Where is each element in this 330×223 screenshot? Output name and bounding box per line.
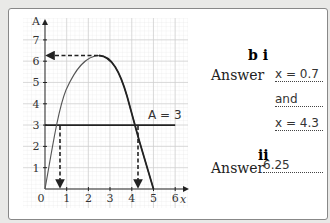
svg-text:0: 0 [38, 192, 45, 205]
svg-text:3: 3 [107, 192, 114, 205]
svg-text:2: 2 [85, 192, 92, 205]
svg-text:x: x [180, 193, 187, 206]
answer-label-1: Answer [211, 67, 264, 83]
answer-b-i-and[interactable]: and [275, 92, 323, 107]
answer-b-ii-value[interactable]: 6.25 [263, 158, 323, 173]
svg-text:1: 1 [63, 192, 70, 205]
answer-b-i-value-1[interactable]: x = 0.7 [275, 67, 323, 82]
svg-text:5: 5 [150, 192, 157, 205]
svg-text:1: 1 [33, 162, 40, 175]
line-label: A = 3 [148, 108, 182, 122]
svg-text:6: 6 [172, 192, 179, 205]
svg-text:6: 6 [33, 55, 40, 68]
svg-text:A: A [31, 15, 41, 28]
svg-text:5: 5 [33, 76, 40, 89]
svg-text:4: 4 [33, 98, 40, 111]
svg-text:4: 4 [128, 192, 135, 205]
svg-text:3: 3 [33, 119, 40, 132]
svg-text:7: 7 [33, 34, 40, 47]
svg-text:2: 2 [33, 140, 40, 153]
answer-label-2: Answer [211, 160, 264, 176]
part-b-i-label: b i [248, 47, 268, 63]
answer-b-i-value-2[interactable]: x = 4.3 [275, 116, 323, 131]
graph: 01 23 45 6 12 34 56 7 A x A = 3 [0, 0, 330, 223]
